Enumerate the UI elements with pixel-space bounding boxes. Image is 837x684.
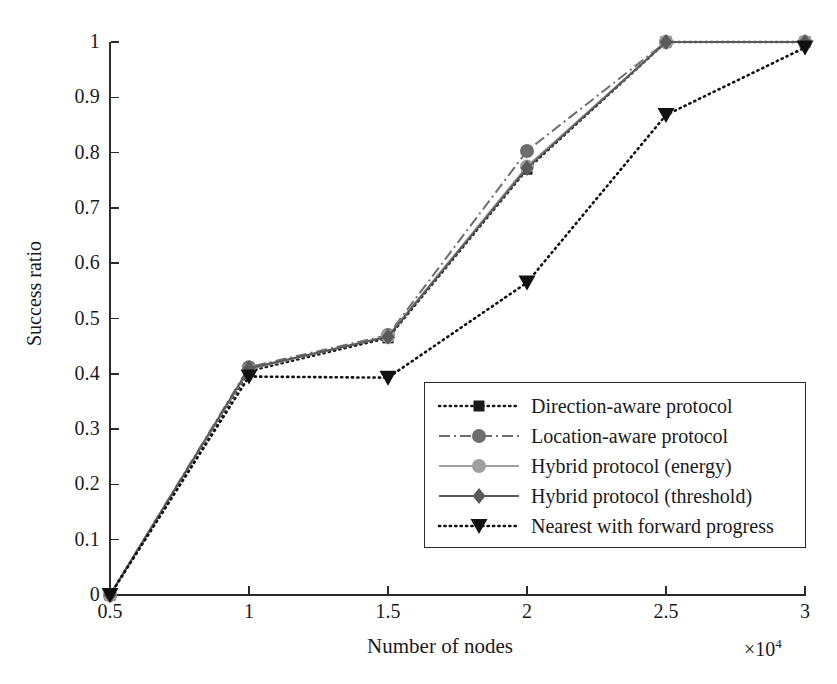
figure-container: 00.10.20.30.40.50.60.70.80.91 0.511.522.… [0,0,837,684]
legend-marker-circle-icon [437,423,521,449]
chart-legend: Direction-aware protocolLocation-aware p… [424,382,806,548]
series-marker [797,41,814,56]
legend-item[interactable]: Nearest with forward progress [425,511,805,541]
legend-label: Direction-aware protocol [521,395,733,417]
legend-item[interactable]: Direction-aware protocol [425,391,805,421]
legend-marker-triangle-down-icon [437,513,521,539]
legend-marker-diamond-icon [437,483,521,509]
series-marker [519,276,536,291]
legend-marker-square-icon [437,393,521,419]
series-marker [380,371,397,386]
plot-area [0,0,837,684]
legend-marker-circle-icon [437,453,521,479]
series-marker [520,144,534,158]
series-marker [658,108,675,123]
legend-label: Hybrid protocol (threshold) [521,485,752,507]
legend-item[interactable]: Location-aware protocol [425,421,805,451]
figure-caption [0,668,837,684]
legend-label: Hybrid protocol (energy) [521,455,732,477]
legend-label: Location-aware protocol [521,425,728,447]
legend-item[interactable]: Hybrid protocol (energy) [425,451,805,481]
legend-item[interactable]: Hybrid protocol (threshold) [425,481,805,511]
legend-label: Nearest with forward progress [521,515,774,537]
